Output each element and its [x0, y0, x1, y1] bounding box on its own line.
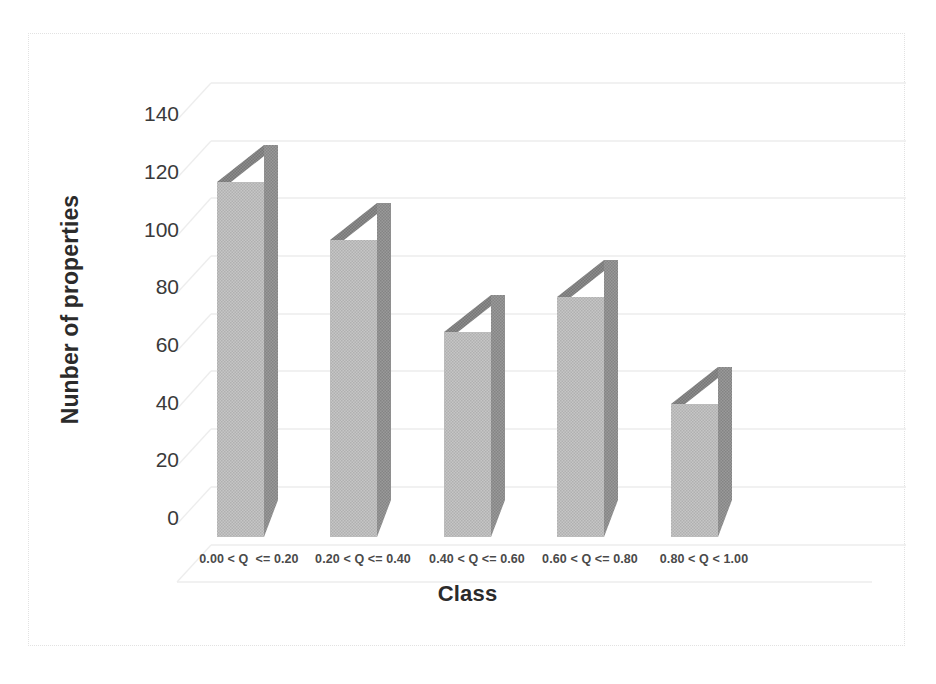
bar-column[interactable] — [557, 260, 618, 537]
y-axis-title: Nunber of properties — [57, 190, 84, 430]
y-tick-label: 140 — [119, 103, 179, 124]
x-axis-title: Class — [29, 581, 906, 607]
figure-root: 140 120 100 80 60 40 20 0 0.00 < Q <= 0.… — [0, 0, 936, 684]
x-axis-ticks: 0.00 < Q <= 0.20 0.20 < Q <= 0.40 0.40 <… — [29, 552, 906, 578]
bar-column[interactable] — [217, 145, 278, 537]
y-tick-label: 40 — [119, 392, 179, 413]
bar-column[interactable] — [330, 203, 391, 537]
bar-column[interactable] — [671, 367, 732, 537]
y-tick-label: 0 — [119, 507, 179, 528]
chart-frame: 140 120 100 80 60 40 20 0 0.00 < Q <= 0.… — [28, 33, 905, 646]
y-tick-label: 20 — [119, 449, 179, 470]
y-tick-label: 60 — [119, 334, 179, 355]
y-tick-label: 100 — [119, 219, 179, 240]
y-tick-label: 80 — [119, 276, 179, 297]
bar-column[interactable] — [444, 295, 505, 537]
x-tick-label: 0.80 < Q < 1.00 — [624, 552, 784, 566]
gridlines — [177, 83, 906, 582]
y-tick-label: 120 — [119, 161, 179, 182]
